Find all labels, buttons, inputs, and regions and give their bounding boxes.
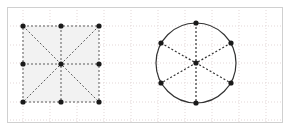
vertex-point-bottom-midpoint <box>58 99 63 104</box>
vertex-point-left-midpoint <box>20 61 25 66</box>
vertex-point-vertex-150 <box>158 40 163 45</box>
vertex-point-bottom-left-corner <box>20 99 25 104</box>
geometry-diagram <box>0 0 289 129</box>
vertex-point-top-midpoint <box>58 23 63 28</box>
vertex-point-vertex-90 <box>193 20 198 25</box>
square-figure <box>20 23 101 104</box>
vertex-point-top-right-corner <box>96 23 101 28</box>
vertex-point-bottom-right-corner <box>96 99 101 104</box>
vertex-point-center <box>193 60 198 65</box>
vertex-point-right-midpoint <box>96 61 101 66</box>
vertex-point-vertex-330 <box>228 80 233 85</box>
diagram-canvas <box>0 0 289 129</box>
vertex-point-top-left-corner <box>20 23 25 28</box>
vertex-point-center <box>58 61 63 66</box>
vertex-point-vertex-210 <box>158 80 163 85</box>
vertex-point-vertex-30 <box>228 40 233 45</box>
vertex-point-vertex-270 <box>193 100 198 105</box>
